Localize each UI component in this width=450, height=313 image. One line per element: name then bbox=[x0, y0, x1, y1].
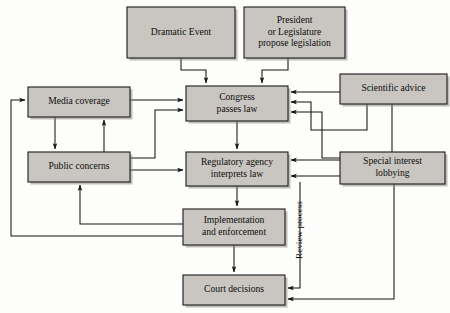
edge-label-review-process: Review process bbox=[294, 201, 304, 259]
node-label-line: Dramatic Event bbox=[151, 26, 212, 37]
node-label-line: lobbying bbox=[375, 167, 409, 178]
edge-public-to-congress bbox=[130, 110, 183, 158]
node-label-line: President bbox=[277, 14, 313, 25]
edge-implementation-to-public bbox=[80, 185, 183, 224]
node-label-line: propose legislation bbox=[258, 37, 331, 48]
node-label-line: Congress bbox=[219, 91, 255, 102]
node-label-line: Scientific advice bbox=[361, 82, 425, 93]
node-label-line: Implementation bbox=[204, 214, 265, 225]
flowchart-diagram: Dramatic EventPresidentor Legislaturepro… bbox=[0, 0, 450, 313]
node-congress-passes-law[interactable]: Congresspasses law bbox=[186, 86, 291, 124]
flowchart-canvas: Dramatic EventPresidentor Legislaturepro… bbox=[0, 0, 450, 313]
node-court-decisions[interactable]: Court decisions bbox=[183, 275, 288, 308]
node-label-line: Regulatory agency bbox=[201, 156, 273, 167]
node-label-line: and enforcement bbox=[202, 226, 267, 237]
node-label-line: Public concerns bbox=[48, 160, 109, 171]
edge-lobbying-to-congress bbox=[291, 112, 340, 158]
node-special-interest-lobbying[interactable]: Special interestlobbying bbox=[340, 152, 448, 187]
node-label-line: passes law bbox=[217, 103, 258, 114]
node-dramatic-event[interactable]: Dramatic Event bbox=[127, 7, 238, 61]
nodes-layer: Dramatic EventPresidentor Legislaturepro… bbox=[28, 7, 450, 308]
node-implementation-enforcement[interactable]: Implementationand enforcement bbox=[183, 209, 288, 248]
edge-president-to-congress bbox=[262, 58, 288, 83]
edge-dramatic-event-to-congress bbox=[181, 58, 206, 83]
node-label-line: or Legislature bbox=[268, 26, 322, 37]
node-scientific-advice[interactable]: Scientific advice bbox=[340, 74, 450, 107]
node-public-concerns[interactable]: Public concerns bbox=[28, 152, 133, 185]
node-label-line: Special interest bbox=[363, 155, 422, 166]
node-president-legislature[interactable]: Presidentor Legislaturepropose legislati… bbox=[244, 7, 348, 61]
node-regulatory-agency[interactable]: Regulatory agencyinterprets law bbox=[186, 152, 291, 189]
node-label-line: Media coverage bbox=[48, 95, 110, 106]
node-label-line: interprets law bbox=[211, 168, 264, 179]
node-media-coverage[interactable]: Media coverage bbox=[28, 87, 133, 120]
node-label-line: Court decisions bbox=[204, 283, 264, 294]
edge-labels-layer: Review process bbox=[294, 201, 304, 259]
